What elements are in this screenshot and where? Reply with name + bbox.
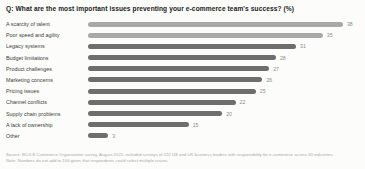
bar-row: Pricing issues25	[6, 86, 363, 96]
category-label: Other	[6, 133, 88, 139]
bar	[88, 89, 256, 94]
category-label: A scarcity of talent	[6, 21, 88, 27]
bar-row: Supply chain problems20	[6, 109, 363, 119]
bar-row: Product challenges27	[6, 64, 363, 74]
bar-row: A lack of ownership15	[6, 120, 363, 130]
chart-footnote: Source: BCG E-Commerce Organization surv…	[6, 152, 361, 164]
bar-track: 35	[88, 32, 363, 38]
bar-track: 27	[88, 66, 363, 72]
bar	[88, 33, 323, 38]
chart-background: Q: What are the most important issues pr…	[0, 0, 365, 169]
category-label: Legacy systems	[6, 43, 88, 49]
category-label: Product challenges	[6, 66, 88, 72]
value-label: 38	[347, 21, 353, 27]
value-label: 28	[280, 55, 286, 61]
value-label: 35	[327, 32, 333, 38]
category-label: A lack of ownership	[6, 122, 88, 128]
value-label: 25	[260, 88, 266, 94]
bar-track: 3	[88, 133, 363, 139]
category-label: Marketing concerns	[6, 77, 88, 83]
bar-track: 22	[88, 99, 363, 105]
value-label: 26	[266, 77, 272, 83]
bar	[88, 55, 276, 60]
value-label: 20	[226, 111, 232, 117]
category-label: Pricing issues	[6, 88, 88, 94]
category-label: Supply chain problems	[6, 111, 88, 117]
bar-row: A scarcity of talent38	[6, 19, 363, 29]
value-label: 15	[193, 122, 199, 128]
bar	[88, 133, 108, 138]
value-label: 31	[300, 43, 306, 49]
bar-track: 38	[88, 21, 363, 27]
value-label: 27	[273, 66, 279, 72]
value-label: 22	[240, 99, 246, 105]
bar-row: Marketing concerns26	[6, 75, 363, 85]
chart-title: Q: What are the most important issues pr…	[6, 5, 361, 12]
bar	[88, 22, 343, 27]
bar-row: Other3	[6, 131, 363, 141]
methodology-note: Note: Numbers do not add to 100 given th…	[6, 158, 361, 164]
bar-row: Channel conflicts22	[6, 97, 363, 107]
bar-track: 15	[88, 122, 363, 128]
category-label: Poor speed and agility	[6, 32, 88, 38]
bar-track: 31	[88, 43, 363, 49]
bar	[88, 100, 236, 105]
bar-track: 25	[88, 88, 363, 94]
category-label: Channel conflicts	[6, 99, 88, 105]
bar-track: 20	[88, 111, 363, 117]
bar-chart: A scarcity of talent38Poor speed and agi…	[6, 19, 363, 141]
bar-track: 28	[88, 55, 363, 61]
bar	[88, 111, 222, 116]
value-label: 3	[112, 133, 115, 139]
bar	[88, 122, 189, 127]
bar	[88, 77, 262, 82]
bar-row: Poor speed and agility35	[6, 30, 363, 40]
source-note: Source: BCG E-Commerce Organization surv…	[6, 152, 361, 158]
bar-row: Budget limitations28	[6, 53, 363, 63]
bar-row: Legacy systems31	[6, 41, 363, 51]
category-label: Budget limitations	[6, 55, 88, 61]
bar	[88, 66, 269, 71]
bar	[88, 44, 296, 49]
bar-track: 26	[88, 77, 363, 83]
